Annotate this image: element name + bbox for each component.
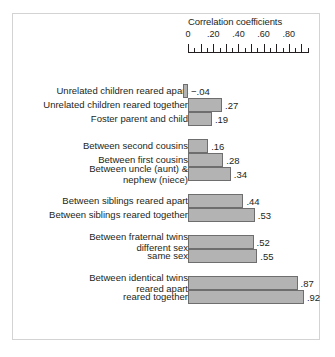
bar-value-label: .34: [234, 169, 247, 180]
bar-plot-area: Unrelated children reared apart−.04Unrel…: [0, 0, 335, 357]
bar: [188, 167, 231, 181]
bar-value-label: .28: [226, 155, 239, 166]
row-label: same sex: [147, 251, 188, 262]
bar: [188, 98, 222, 112]
bar: [188, 153, 223, 167]
bar-value-label: .55: [260, 251, 273, 262]
bar-value-label: .87: [301, 278, 314, 289]
bar-value-label: .44: [246, 196, 259, 207]
bar-value-label: .27: [225, 100, 238, 111]
bar-value-label: .52: [257, 237, 270, 248]
row-label: Between uncle (aunt) &nephew (niece): [89, 164, 188, 185]
chart-row: Unrelated children reared together.27: [0, 98, 335, 112]
bar-value-label: .53: [258, 210, 271, 221]
chart-row: Between uncle (aunt) &nephew (niece).34: [0, 167, 335, 181]
chart-row: reared together.92: [0, 290, 335, 304]
row-label: Foster parent and child: [91, 114, 188, 125]
chart-row: Foster parent and child.19: [0, 112, 335, 126]
chart-row: Between siblings reared apart.44: [0, 194, 335, 208]
bar: [188, 290, 304, 304]
chart-row: Between second cousins.16: [0, 139, 335, 153]
row-label: reared together: [123, 292, 188, 303]
bar: [188, 235, 254, 249]
chart-row: Between identical twinsreared apart.87: [0, 276, 335, 290]
chart-row: Unrelated children reared apart−.04: [0, 84, 335, 98]
bar: [188, 208, 255, 222]
bar-value-label: .19: [215, 114, 228, 125]
bar: [188, 139, 208, 153]
row-label: Between siblings reared apart: [62, 196, 188, 207]
bar: [188, 249, 257, 263]
bar-value-label: −.04: [191, 86, 210, 97]
chart-row: same sex.55: [0, 249, 335, 263]
bar-value-label: .92: [307, 292, 320, 303]
chart-row: Between siblings reared together.53: [0, 208, 335, 222]
bar: [188, 194, 243, 208]
bar-value-label: .16: [211, 141, 224, 152]
row-label: Between second cousins: [83, 141, 188, 152]
chart-row: Between fraternal twinsdifferent sex.52: [0, 235, 335, 249]
bar: [183, 84, 188, 98]
bar: [188, 112, 212, 126]
bar: [188, 276, 298, 290]
row-label: Unrelated children reared apart: [57, 86, 189, 97]
row-label: Unrelated children reared together: [43, 100, 188, 111]
row-label: Between siblings reared together: [49, 210, 188, 221]
